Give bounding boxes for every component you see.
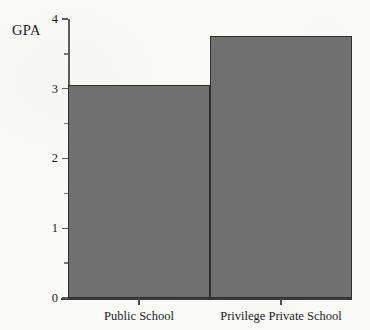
x-axis-tick [280,298,281,305]
bar-chart-figure: GPA 01234 Public SchoolPrivilege Private… [0,0,370,330]
bar-privilege-private-school [210,36,352,298]
y-axis-tick-label: 0 [52,291,58,304]
y-axis-tick-label: 3 [52,82,58,95]
y-axis-tick-label: 4 [52,13,58,26]
x-axis-label-privilege-private-school: Privilege Private School [220,310,342,323]
y-axis-tick-label: 1 [52,222,58,235]
y-axis-title: GPA [12,22,41,39]
x-axis-label-public-school: Public School [104,310,174,323]
bar-public-school [68,85,210,298]
x-axis-line [61,298,352,300]
y-axis-tick-label: 2 [52,152,58,165]
y-axis-tick-4: 4 [62,18,68,19]
plot-area: 01234 Public SchoolPrivilege Private Sch… [68,19,352,298]
y-axis-minor-tick [64,53,68,54]
x-axis-tick [138,298,139,305]
